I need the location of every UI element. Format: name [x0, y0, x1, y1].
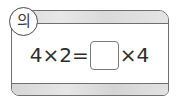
card-bottom-band [12, 83, 168, 95]
example-badge: 의 [9, 7, 38, 36]
operand-4: 4 [137, 45, 150, 65]
times-sign: × [42, 45, 59, 65]
equation: 4 × 2 = × 4 [0, 40, 179, 70]
badge-label: 의 [17, 14, 31, 29]
operand-2: 2 [59, 45, 72, 65]
times-sign: × [120, 45, 137, 65]
answer-blank-box[interactable] [90, 41, 119, 70]
operand-4: 4 [30, 45, 43, 65]
equals-sign: = [72, 45, 89, 65]
